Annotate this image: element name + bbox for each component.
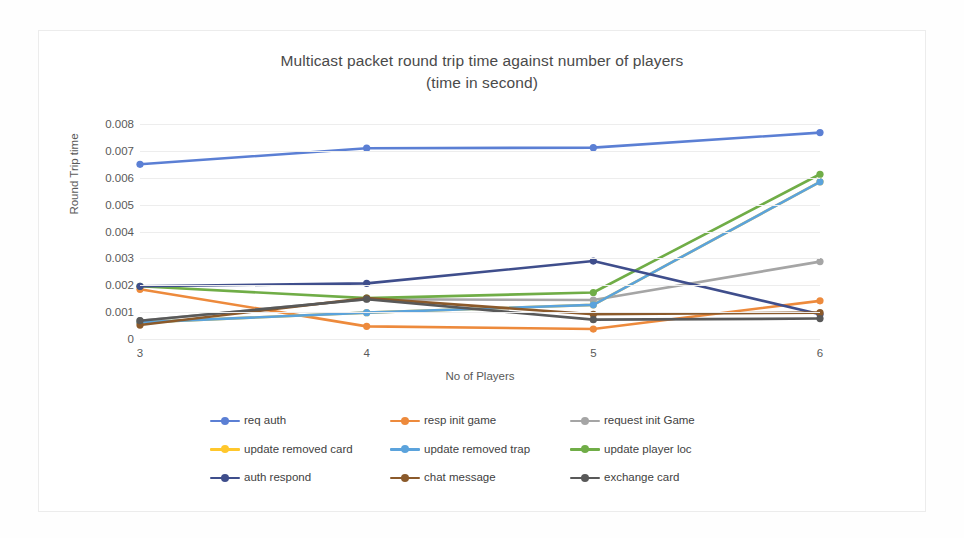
- legend-item[interactable]: update removed card: [210, 444, 390, 456]
- chart-title: Multicast packet round trip time against…: [38, 50, 926, 95]
- legend-item[interactable]: update removed trap: [390, 444, 570, 456]
- legend-swatch-icon: [570, 444, 600, 454]
- legend-label: update removed card: [244, 444, 353, 456]
- gridline: [140, 339, 820, 340]
- series-line: [140, 133, 820, 165]
- gridline: [140, 312, 820, 313]
- gridline: [140, 151, 820, 152]
- y-tick-label: 0: [128, 333, 134, 345]
- y-axis-title: Round Trip time: [68, 94, 80, 254]
- series-marker: [590, 289, 597, 296]
- series-marker: [136, 161, 143, 168]
- legend-label: update player loc: [604, 444, 692, 456]
- x-tick-label: 3: [137, 347, 143, 359]
- y-tick-label: 0.006: [105, 172, 134, 184]
- chart-legend: req authresp init gamerequest init Gameu…: [210, 415, 750, 484]
- gridline: [140, 285, 820, 286]
- legend-item[interactable]: auth respond: [210, 472, 390, 484]
- x-axis-tick-labels: 3456: [140, 347, 820, 365]
- series-marker: [363, 323, 370, 330]
- legend-swatch-icon: [210, 444, 240, 454]
- series-marker: [816, 178, 823, 185]
- y-tick-label: 0.002: [105, 279, 134, 291]
- x-tick-label: 6: [817, 347, 823, 359]
- series-line: [140, 182, 820, 323]
- gridline: [140, 258, 820, 259]
- legend-label: exchange card: [604, 472, 679, 484]
- series-marker: [816, 129, 823, 136]
- gridline: [140, 124, 820, 125]
- chart-title-line1: Multicast packet round trip time against…: [281, 52, 684, 69]
- series-marker: [816, 315, 823, 322]
- legend-item[interactable]: update player loc: [570, 444, 750, 456]
- gridline: [140, 205, 820, 206]
- series-marker: [590, 301, 597, 308]
- legend-swatch-icon: [390, 444, 420, 454]
- legend-swatch-icon: [570, 416, 600, 426]
- plot-area: [140, 124, 820, 339]
- series-marker: [136, 283, 143, 290]
- series-line: [140, 182, 820, 323]
- series-marker: [363, 296, 370, 303]
- y-tick-label: 0.003: [105, 252, 134, 264]
- y-tick-label: 0.001: [105, 306, 134, 318]
- gridline: [140, 178, 820, 179]
- y-tick-label: 0.005: [105, 199, 134, 211]
- x-axis-title: No of Players: [140, 370, 820, 382]
- series-marker: [136, 317, 143, 324]
- legend-swatch-icon: [390, 416, 420, 426]
- x-tick-label: 5: [590, 347, 596, 359]
- legend-swatch-icon: [210, 416, 240, 426]
- y-tick-label: 0.008: [105, 118, 134, 130]
- legend-item[interactable]: resp init game: [390, 415, 570, 427]
- y-tick-label: 0.007: [105, 145, 134, 157]
- legend-label: auth respond: [244, 472, 311, 484]
- legend-label: update removed trap: [424, 444, 530, 456]
- chart-page: Multicast packet round trip time against…: [0, 0, 964, 538]
- y-tick-label: 0.004: [105, 226, 134, 238]
- legend-label: request init Game: [604, 415, 695, 427]
- legend-item[interactable]: chat message: [390, 472, 570, 484]
- legend-item[interactable]: request init Game: [570, 415, 750, 427]
- legend-label: chat message: [424, 472, 496, 484]
- legend-swatch-icon: [210, 473, 240, 483]
- chart-title-line2: (time in second): [38, 72, 926, 94]
- series-marker: [590, 325, 597, 332]
- series-marker: [590, 316, 597, 323]
- gridline: [140, 232, 820, 233]
- legend-swatch-icon: [390, 473, 420, 483]
- legend-item[interactable]: req auth: [210, 415, 390, 427]
- legend-swatch-icon: [570, 473, 600, 483]
- legend-label: req auth: [244, 415, 286, 427]
- series-marker: [816, 297, 823, 304]
- legend-item[interactable]: exchange card: [570, 472, 750, 484]
- legend-label: resp init game: [424, 415, 496, 427]
- x-tick-label: 4: [363, 347, 369, 359]
